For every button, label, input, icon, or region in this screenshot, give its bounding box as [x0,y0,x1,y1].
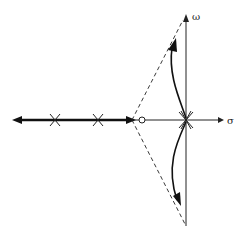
root-locus-diagram: σ ω [0,0,237,236]
asymptote-upper [132,20,183,120]
locus-upper-arrow-icon [168,38,177,52]
locus-branch-lower [172,122,186,200]
locus-right-arrow-icon [126,116,136,124]
locus-branch-upper [171,48,186,118]
real-axis-arrow-icon [218,117,224,123]
asymptote-lower [132,120,186,226]
locus-lower-arrow-icon [173,192,181,206]
imaginary-axis-arrow-icon [183,14,189,22]
imaginary-axis-label: ω [192,11,200,22]
real-axis-label: σ [227,115,234,126]
zero-1-icon [139,117,145,123]
locus-left-arrow-icon [12,116,22,124]
